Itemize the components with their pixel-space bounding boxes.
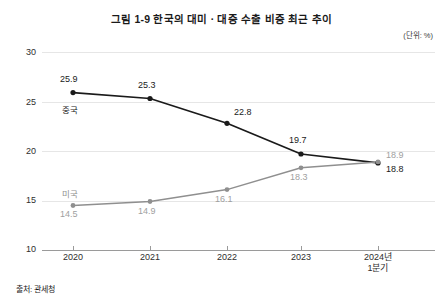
x-axis-label-2023-line1: 2023 (291, 252, 311, 262)
markers-china (70, 90, 380, 166)
y-axis-tick-20: 20 (8, 146, 36, 156)
x-axis-label-2022-line1: 2022 (217, 252, 237, 262)
data-label-usa-2023: 18.3 (290, 172, 308, 182)
data-label-china-2023: 19.7 (289, 135, 307, 145)
line-china (73, 93, 378, 163)
data-label-china-2024q1: 18.8 (386, 164, 404, 174)
x-axis-label-2020-line1: 2020 (63, 252, 83, 262)
x-axis-label-2024q1: 2024년 1분기 (343, 252, 413, 274)
data-label-usa-2020: 14.5 (60, 209, 78, 219)
x-axis-label-2022: 2022 (192, 252, 262, 263)
x-axis-label-2024q1-line2: 1분기 (367, 263, 388, 273)
y-axis-tick-15: 15 (8, 195, 36, 205)
data-label-china-2020: 25.9 (60, 74, 78, 84)
series-lines (42, 52, 435, 250)
x-axis-label-2024q1-line1: 2024년 (364, 252, 392, 262)
data-label-china-2021: 25.3 (138, 80, 156, 90)
data-label-usa-2022: 16.1 (215, 194, 233, 204)
y-axis-tick-30: 30 (8, 47, 36, 57)
data-label-china-2022: 22.8 (234, 107, 252, 117)
page-title: 그림 1-9 한국의 대미 · 대중 수출 비중 최근 추이 (0, 11, 443, 26)
y-axis-tick-10: 10 (8, 244, 36, 254)
series-label-china: 중국 (62, 103, 78, 115)
x-axis-line (42, 250, 435, 251)
x-axis-label-2021-line1: 2021 (140, 252, 160, 262)
x-axis-label-2021: 2021 (115, 252, 185, 263)
source-note: 출처: 관세청 (16, 283, 55, 294)
data-label-usa-2021: 14.9 (138, 206, 156, 216)
unit-label: (단위: %) (403, 29, 433, 40)
chart-page: 그림 1-9 한국의 대미 · 대중 수출 비중 최근 추이 (단위: %) 3… (0, 0, 443, 304)
plot-area: 25.9 25.3 22.8 19.7 18.8 14.5 14.9 16.1 … (42, 52, 435, 250)
y-axis-tick-25: 25 (8, 97, 36, 107)
data-label-usa-2024q1: 18.9 (386, 150, 404, 160)
series-label-usa: 미국 (62, 187, 78, 199)
x-axis-label-2020: 2020 (38, 252, 108, 263)
x-axis-label-2023: 2023 (266, 252, 336, 263)
